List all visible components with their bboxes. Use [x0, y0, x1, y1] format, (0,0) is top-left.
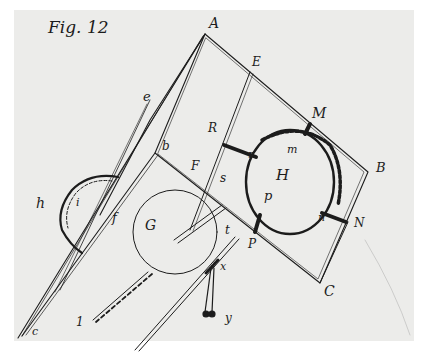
label-x: x — [220, 260, 227, 273]
label-R: R — [207, 121, 217, 135]
figure-title: Fig. 12 — [47, 17, 109, 37]
label-n: n — [318, 211, 325, 224]
label-s: s — [220, 171, 226, 185]
label-h: h — [36, 195, 45, 211]
figure-canvas: Fig. 12 A E M B N C R F P H G b e c h i … — [0, 0, 429, 355]
label-E: E — [251, 55, 261, 69]
label-e: e — [143, 89, 151, 104]
label-r: r — [248, 148, 254, 161]
label-c: c — [32, 325, 38, 338]
label-y: y — [224, 311, 232, 325]
label-i: i — [76, 196, 80, 209]
label-B: B — [375, 160, 386, 175]
label-G: G — [145, 217, 156, 233]
label-F: F — [190, 159, 200, 173]
label-P: P — [247, 237, 257, 251]
left-plane — [18, 34, 205, 338]
label-m: m — [287, 143, 297, 156]
rod-s — [174, 205, 226, 243]
label-M: M — [311, 105, 327, 121]
fig12-diagram: Fig. 12 A E M B N C R F P H G b e c h i … — [0, 0, 429, 355]
label-N: N — [353, 216, 365, 230]
label-b: b — [162, 139, 170, 153]
hemisphere-h — [60, 176, 118, 253]
rod-t — [135, 237, 239, 351]
label-p: p — [264, 188, 273, 203]
label-C: C — [324, 283, 335, 299]
hanging-weights — [203, 268, 215, 317]
label-1: 1 — [76, 315, 84, 329]
label-H: H — [275, 166, 290, 184]
inner-frame-erpn — [190, 72, 348, 283]
label-f: f — [111, 210, 119, 225]
label-t: t — [225, 223, 230, 237]
rod-lower — [93, 272, 152, 322]
label-A: A — [207, 15, 219, 31]
